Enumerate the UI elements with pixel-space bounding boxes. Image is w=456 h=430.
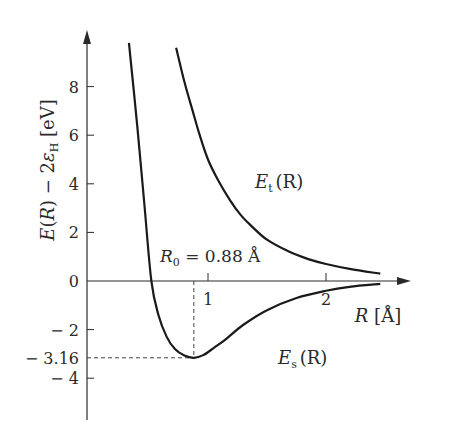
y-axis-label: E(R) − 2εH [eV] [37, 99, 61, 241]
y-tick-label: − 2 [50, 321, 79, 340]
x-tick-label: 1 [203, 290, 213, 309]
series-et-line [176, 48, 380, 274]
x-axis-label: R [Å] [354, 305, 401, 326]
y-tick-label: 0 [69, 272, 79, 291]
y-tick-label: 2 [69, 223, 79, 242]
minimum-annotation: R0 = 0.88 Å [159, 246, 261, 269]
series-es-line [129, 43, 380, 358]
y-tick-label: 8 [69, 78, 79, 97]
potential-energy-chart: 86420− 2− 3.16− 4 12 E(R) − 2εH [eV] R [… [0, 0, 456, 430]
series-label-et: Et(R) [254, 171, 303, 195]
y-tick-label: − 4 [50, 369, 79, 388]
y-tick-label: − 3.16 [25, 349, 79, 368]
series-label-es: Es(R) [277, 347, 327, 371]
y-tick-label: 4 [69, 175, 79, 194]
y-axis-arrow-icon [83, 30, 91, 44]
x-tick-label: 2 [321, 290, 331, 309]
x-axis-arrow-icon [397, 277, 411, 285]
y-tick-label: 6 [69, 126, 79, 145]
